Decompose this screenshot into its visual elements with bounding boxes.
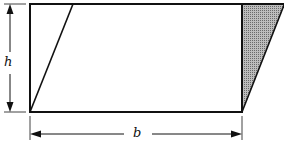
rectangle bbox=[30, 4, 242, 112]
left-slant-edge bbox=[30, 4, 73, 112]
base-label: b bbox=[131, 126, 143, 140]
arrow-down-icon bbox=[7, 102, 14, 112]
arrow-left-icon bbox=[30, 131, 41, 138]
arrow-right-icon bbox=[231, 131, 242, 138]
height-label: h bbox=[2, 55, 14, 69]
arrow-up-icon bbox=[7, 4, 14, 14]
